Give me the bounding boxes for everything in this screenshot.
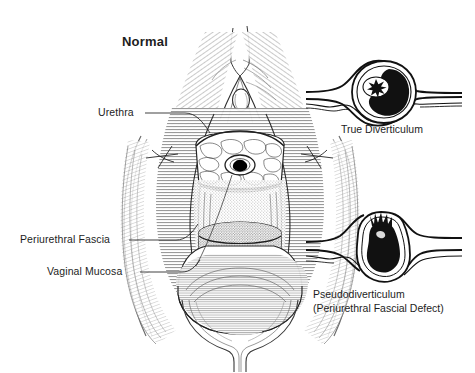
caption-line-1: Pseudodiverticulum xyxy=(313,288,444,302)
label-urethra: Urethra xyxy=(98,106,134,118)
label-vaginal-mucosa: Vaginal Mucosa xyxy=(47,265,122,277)
anatomy-drawing xyxy=(0,0,475,373)
caption-line-2: (Periurethral Fascial Defect) xyxy=(313,302,444,316)
main-anatomy-normal xyxy=(110,26,380,372)
medical-illustration-figure: Normal Urethra Periurethral Fascia Vagin… xyxy=(0,0,475,373)
panel-true-diverticulum xyxy=(306,61,462,126)
page-title: Normal xyxy=(122,34,168,49)
caption-line-1: True Diverticulum xyxy=(341,123,423,137)
panel-pseudodiverticulum xyxy=(306,212,462,282)
caption-true-diverticulum: True Diverticulum xyxy=(341,123,423,137)
label-periurethral-fascia: Periurethral Fascia xyxy=(20,233,110,245)
clitoris xyxy=(233,89,250,111)
caption-pseudodiverticulum: Pseudodiverticulum (Periurethral Fascial… xyxy=(313,288,444,315)
